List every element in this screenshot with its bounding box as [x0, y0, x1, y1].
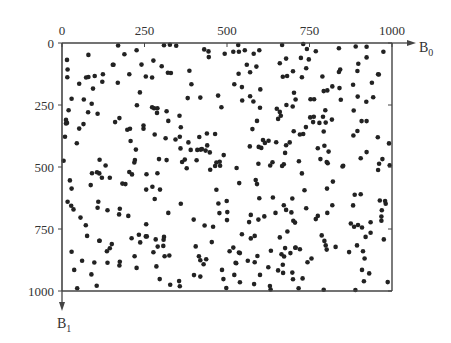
data-point [252, 282, 257, 287]
data-point [186, 140, 191, 145]
data-point [150, 105, 155, 110]
data-point [297, 159, 302, 164]
data-point [292, 91, 297, 96]
data-point [276, 268, 281, 273]
data-point [213, 132, 218, 137]
data-point [207, 55, 212, 60]
data-point [155, 111, 160, 116]
data-point [86, 75, 91, 80]
data-point [166, 211, 171, 216]
data-point [360, 225, 365, 230]
data-point [325, 211, 330, 216]
data-point [299, 56, 304, 61]
x-axis-arrow-icon [407, 40, 416, 46]
data-point [282, 203, 287, 208]
data-point [316, 146, 321, 151]
data-point [288, 251, 293, 256]
data-point [159, 64, 164, 69]
data-point [307, 57, 312, 62]
data-point [168, 283, 173, 288]
x-tick-label: 750 [300, 23, 320, 38]
data-point [323, 108, 328, 113]
data-point [65, 67, 70, 72]
data-point [367, 271, 372, 276]
data-point [72, 268, 77, 273]
data-point [253, 178, 258, 183]
data-point [220, 268, 225, 273]
data-point [337, 70, 342, 75]
data-point [185, 96, 190, 101]
data-point [364, 119, 369, 124]
data-point [252, 234, 257, 239]
data-point [318, 157, 323, 162]
data-point [271, 195, 276, 200]
data-point [245, 63, 250, 68]
data-point [95, 170, 100, 175]
data-point [290, 196, 295, 201]
data-point [216, 201, 221, 206]
data-point [221, 277, 226, 282]
data-point [210, 240, 215, 245]
data-point [225, 218, 230, 223]
data-point [188, 148, 193, 153]
data-point [278, 235, 283, 240]
data-point [364, 55, 369, 60]
data-point [378, 198, 383, 203]
data-point [293, 245, 298, 250]
data-point [339, 98, 344, 103]
data-point [100, 175, 105, 180]
data-point [331, 179, 336, 184]
data-point [285, 229, 290, 234]
data-point [361, 249, 366, 254]
data-point [144, 187, 149, 192]
data-point [355, 243, 360, 248]
data-point [97, 238, 102, 243]
data-point [322, 143, 327, 148]
data-point [183, 157, 188, 162]
data-point [82, 97, 87, 102]
data-point [77, 126, 82, 131]
data-point [95, 111, 100, 116]
data-point [305, 47, 310, 52]
data-point [352, 193, 357, 198]
data-point [201, 262, 206, 267]
data-point [198, 274, 203, 279]
data-point [178, 284, 183, 289]
data-point [211, 225, 216, 230]
data-point [258, 273, 263, 278]
data-point [164, 109, 169, 114]
data-point [380, 157, 385, 162]
data-point [298, 247, 303, 252]
data-point [248, 70, 253, 75]
data-point [151, 250, 156, 255]
data-point [81, 122, 86, 127]
data-point [152, 197, 157, 202]
data-point [377, 162, 382, 167]
data-point [77, 81, 82, 86]
data-point [300, 171, 305, 176]
data-point [198, 95, 203, 100]
data-point [280, 164, 285, 169]
data-point [355, 69, 360, 74]
data-point [385, 280, 390, 285]
data-point [164, 158, 169, 163]
data-point [247, 220, 252, 225]
data-point [178, 146, 183, 151]
data-point [376, 135, 381, 140]
data-point [311, 120, 316, 125]
data-point [300, 276, 305, 281]
data-point [108, 175, 113, 180]
data-point [370, 80, 375, 85]
data-point [314, 49, 319, 54]
data-point [383, 199, 388, 204]
data-point [353, 44, 358, 49]
data-point [376, 168, 381, 173]
data-point [349, 221, 354, 226]
data-point [141, 127, 146, 132]
data-point [177, 279, 182, 284]
data-point [153, 237, 158, 242]
data-point [200, 147, 205, 152]
data-point [195, 148, 200, 153]
data-point [221, 153, 226, 158]
data-point [358, 156, 363, 161]
